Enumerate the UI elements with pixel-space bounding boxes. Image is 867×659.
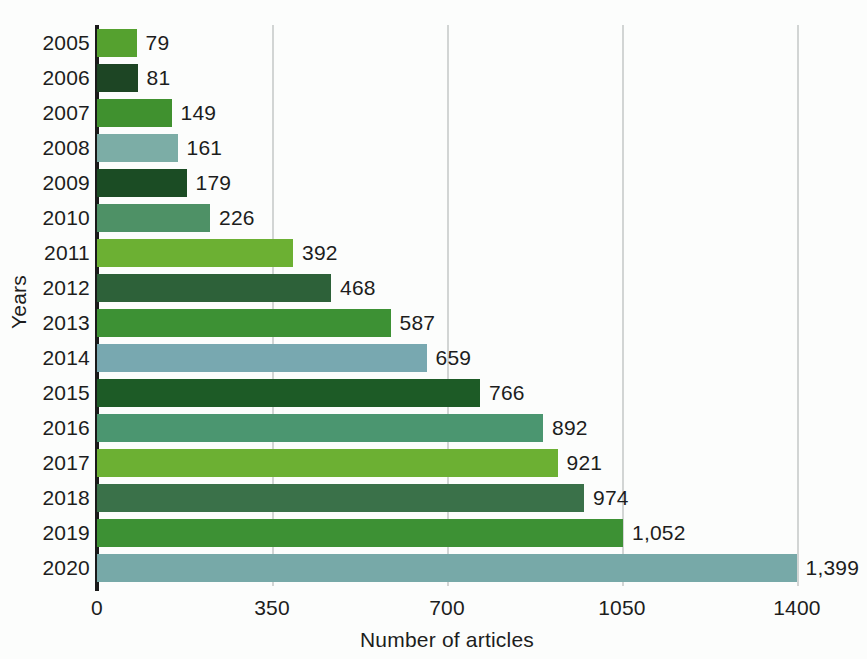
bar-2019	[97, 519, 623, 547]
bar-value-label-2019: 1,052	[632, 521, 686, 545]
bar-row: 226	[97, 204, 797, 232]
y-tick-label-2020: 2020	[28, 556, 90, 580]
bar-row: 659	[97, 344, 797, 372]
bar-value-label-2015: 766	[489, 381, 525, 405]
bar-2008	[97, 134, 178, 162]
bar-row: 179	[97, 169, 797, 197]
bar-row: 587	[97, 309, 797, 337]
bar-2017	[97, 449, 558, 477]
bar-row: 79	[97, 29, 797, 57]
y-tick-label-2014: 2014	[28, 346, 90, 370]
bar-row: 81	[97, 64, 797, 92]
bar-row: 892	[97, 414, 797, 442]
bar-2015	[97, 379, 480, 407]
bar-value-label-2009: 179	[196, 171, 232, 195]
bar-value-label-2020: 1,399	[806, 556, 860, 580]
y-axis-tick-labels: 2005200620072008200920102011201220132014…	[20, 25, 90, 586]
y-tick-label-2005: 2005	[28, 31, 90, 55]
bar-2018	[97, 484, 584, 512]
y-tick-label-2015: 2015	[28, 381, 90, 405]
y-tick-label-2012: 2012	[28, 276, 90, 300]
y-tick-label-2007: 2007	[28, 101, 90, 125]
bar-2006	[97, 64, 138, 92]
x-axis-tick-labels: 035070010501400	[97, 596, 797, 626]
bar-row: 766	[97, 379, 797, 407]
y-tick-label-2016: 2016	[28, 416, 90, 440]
bar-2005	[97, 29, 137, 57]
bar-row: 1,052	[97, 519, 797, 547]
bar-2020	[97, 554, 797, 582]
bar-2013	[97, 309, 391, 337]
bar-row: 1,399	[97, 554, 797, 582]
x-axis-title: Number of articles	[97, 628, 797, 652]
bar-2011	[97, 239, 293, 267]
y-tick-label-2006: 2006	[28, 66, 90, 90]
y-tick-label-2010: 2010	[28, 206, 90, 230]
bar-2014	[97, 344, 427, 372]
plot-area: 7981149161179226392468587659766892921974…	[97, 25, 797, 586]
y-tick-label-2019: 2019	[28, 521, 90, 545]
x-tick-label-700: 700	[429, 596, 465, 620]
bar-value-label-2012: 468	[340, 276, 376, 300]
bar-row: 392	[97, 239, 797, 267]
bar-value-label-2018: 974	[593, 486, 629, 510]
bar-row: 974	[97, 484, 797, 512]
x-tick-label-1050: 1050	[598, 596, 646, 620]
y-tick-label-2013: 2013	[28, 311, 90, 335]
y-tick-label-2008: 2008	[28, 136, 90, 160]
bar-value-label-2010: 226	[219, 206, 255, 230]
x-tick-label-0: 0	[91, 596, 103, 620]
bar-2012	[97, 274, 331, 302]
bar-chart: Years 2005200620072008200920102011201220…	[0, 0, 867, 659]
bar-row: 468	[97, 274, 797, 302]
bar-value-label-2006: 81	[147, 66, 171, 90]
gridline-1400	[797, 25, 799, 586]
bar-value-label-2017: 921	[567, 451, 603, 475]
bar-value-label-2016: 892	[552, 416, 588, 440]
bar-value-label-2014: 659	[436, 346, 472, 370]
bar-row: 149	[97, 99, 797, 127]
bar-row: 161	[97, 134, 797, 162]
x-tick-label-350: 350	[254, 596, 290, 620]
bar-2007	[97, 99, 172, 127]
bar-value-label-2005: 79	[146, 31, 170, 55]
bar-value-label-2007: 149	[181, 101, 217, 125]
x-tick-label-1400: 1400	[773, 596, 821, 620]
bar-row: 921	[97, 449, 797, 477]
bar-2009	[97, 169, 187, 197]
bar-2010	[97, 204, 210, 232]
y-tick-label-2018: 2018	[28, 486, 90, 510]
bar-value-label-2011: 392	[302, 241, 338, 265]
y-tick-label-2011: 2011	[28, 241, 90, 265]
bar-value-label-2008: 161	[187, 136, 223, 160]
bar-2016	[97, 414, 543, 442]
y-tick-label-2009: 2009	[28, 171, 90, 195]
y-tick-label-2017: 2017	[28, 451, 90, 475]
bar-value-label-2013: 587	[400, 311, 436, 335]
